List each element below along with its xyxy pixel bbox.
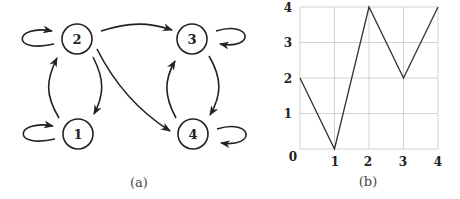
caption-b: (b): [359, 174, 377, 189]
node-3-label: 3: [187, 32, 196, 47]
xtick-3: 3: [399, 155, 407, 169]
node-1-label: 1: [73, 127, 82, 142]
origin-label: 0: [289, 150, 297, 164]
state-graph: [22, 24, 246, 149]
xtick-1: 1: [331, 155, 339, 169]
node-4-label: 4: [188, 127, 197, 142]
edge-4-3: [167, 61, 176, 118]
ytick-3: 3: [284, 36, 292, 50]
line-chart: 4 3 2 1 0 1 2 3 4 (b): [284, 1, 442, 189]
ytick-2: 2: [284, 72, 292, 86]
edge-2-3: [101, 24, 172, 31]
ytick-1: 1: [284, 107, 292, 121]
edge-3-4: [209, 56, 219, 115]
ytick-4: 4: [284, 1, 292, 15]
xtick-2: 2: [364, 155, 372, 169]
chart-grid: [300, 7, 438, 149]
xtick-4: 4: [434, 155, 442, 169]
edge-1-2: [49, 58, 59, 118]
y-tick-labels: 4 3 2 1 0: [284, 1, 297, 164]
edge-4-4: [217, 127, 246, 144]
edge-2-1: [93, 57, 102, 114]
edge-3-3: [216, 29, 245, 45]
figure: 2 1 3 4 (a) 4 3 2 1 0 1 2: [0, 0, 460, 199]
edge-2-2: [22, 30, 54, 46]
edge-2-4: [97, 49, 170, 131]
caption-a: (a): [130, 175, 148, 190]
node-2-label: 2: [72, 32, 81, 47]
x-tick-labels: 1 2 3 4: [331, 155, 442, 169]
edge-1-1: [23, 125, 55, 141]
